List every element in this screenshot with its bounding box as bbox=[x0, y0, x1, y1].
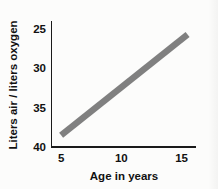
x-tick-label-5: 5 bbox=[58, 152, 65, 164]
data-series-line bbox=[61, 34, 187, 135]
y-tick-label-25: 25 bbox=[33, 23, 46, 35]
y-tick-label-30: 30 bbox=[33, 62, 46, 74]
line-chart: Liters air / liters oxygen 25 30 35 40 5… bbox=[0, 0, 218, 189]
y-axis-label: Liters air / liters oxygen bbox=[7, 20, 19, 149]
chart-figure: Liters air / liters oxygen 25 30 35 40 5… bbox=[0, 0, 218, 189]
x-tick-label-15: 15 bbox=[175, 152, 188, 164]
x-tick-label-10: 10 bbox=[115, 152, 128, 164]
x-axis-label: Age in years bbox=[90, 170, 158, 182]
y-tick-label-40: 40 bbox=[33, 141, 46, 153]
y-tick-label-35: 35 bbox=[33, 102, 46, 114]
